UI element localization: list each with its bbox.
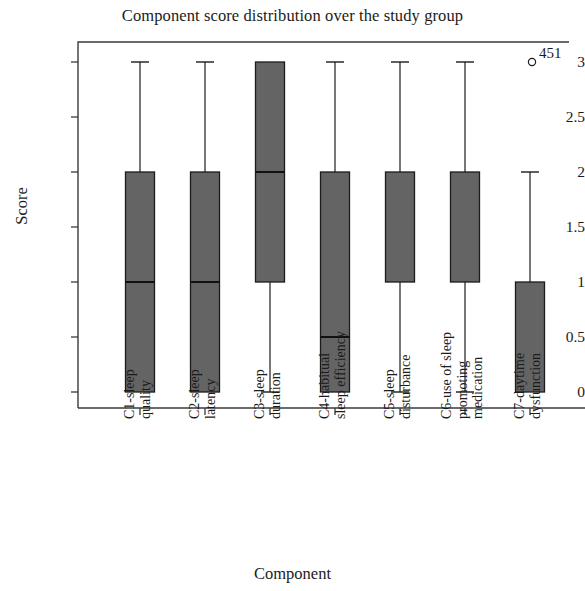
x-axis-tick-label: C1-sleepquality	[122, 369, 153, 419]
plot-area	[0, 0, 585, 591]
x-axis-tick-label: C5-sleepdisturbance	[382, 354, 413, 419]
y-axis-tick-label: 0	[549, 383, 585, 401]
box-body	[386, 172, 415, 282]
outlier-markers	[528, 58, 535, 65]
outlier-label: 451	[539, 45, 562, 62]
box-body	[451, 172, 480, 282]
y-axis-tick-label: 0.5	[549, 328, 585, 346]
y-axis-ticks	[71, 62, 78, 392]
x-axis-tick-label: C7-daytimedysfunction	[512, 353, 543, 419]
box-plot-item	[256, 62, 285, 392]
y-axis-tick-label: 1	[549, 273, 585, 291]
y-axis-tick-label: 2.5	[549, 108, 585, 126]
box-plot-item	[126, 62, 155, 392]
box-plot-figure: Component score distribution over the st…	[0, 0, 585, 591]
y-axis-tick-label: 1.5	[549, 218, 585, 236]
x-axis-tick-label: C3-sleepduration	[252, 369, 283, 419]
outlier-point	[528, 58, 535, 65]
x-axis-tick-label: C2-sleeplatency	[187, 369, 218, 419]
x-axis-tick-label: C4-habitualsleep efficiency	[317, 331, 348, 419]
y-axis-title: Score	[12, 166, 32, 246]
x-axis-title: Component	[0, 564, 585, 584]
box-plot-item	[386, 62, 415, 392]
chart-title: Component score distribution over the st…	[0, 6, 585, 26]
x-axis-tick-label: C6-use of sleeppromotingmedication	[439, 332, 486, 419]
box-plot-item	[191, 62, 220, 392]
y-axis-tick-label: 2	[549, 163, 585, 181]
